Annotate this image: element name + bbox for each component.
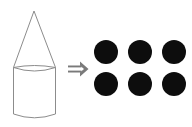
arrow-head: [80, 62, 89, 77]
cone-left-side: [14, 11, 35, 68]
dot-grid-figure: [94, 40, 186, 96]
arrow-upper-bar: [68, 66, 82, 68]
cylinder-top-ellipse-back: [14, 66, 56, 68]
cylinder-bottom-arc: [14, 114, 56, 118]
diagram-canvas: [0, 0, 192, 127]
dot-1: [94, 40, 118, 64]
double-right-arrow-icon: [68, 62, 89, 77]
cylinder-top-ellipse: [14, 68, 56, 72]
dot-6: [162, 72, 186, 96]
dot-3: [162, 40, 186, 64]
diagram-svg: [0, 0, 192, 127]
dot-5: [128, 72, 152, 96]
dot-4: [94, 72, 118, 96]
arrow-lower-bar: [68, 71, 82, 73]
cone-right-side: [34, 11, 56, 68]
dot-2: [128, 40, 152, 64]
cone-on-cylinder-figure: [14, 11, 56, 118]
